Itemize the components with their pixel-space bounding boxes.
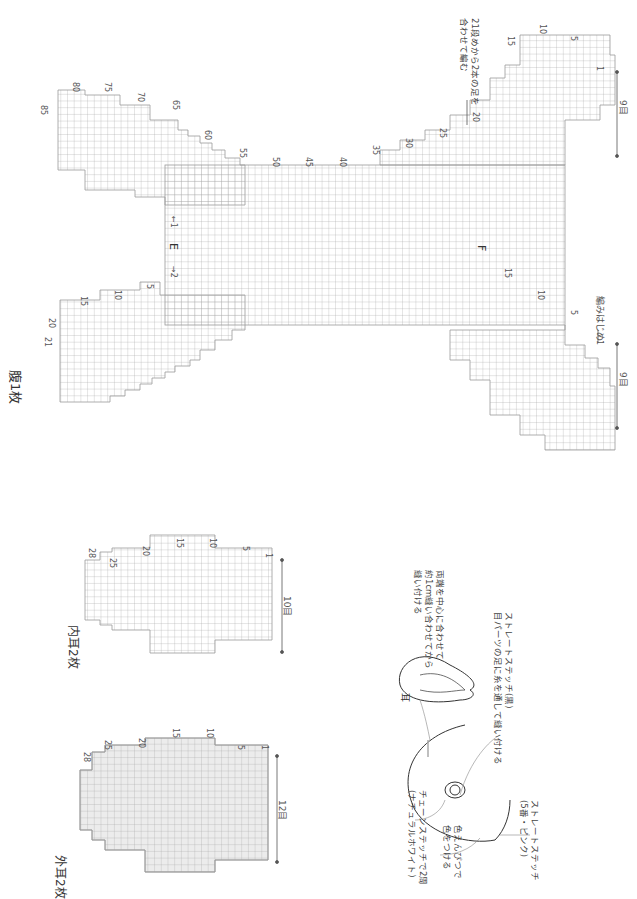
inner-ear-width: 10目 <box>281 596 294 616</box>
chain-stitch-note: チェーンステッチで2周 (ナチュラルホワイト) <box>406 790 428 885</box>
belly-right-row-15: 15 <box>506 36 515 46</box>
belly-row-75: 75 <box>103 82 112 92</box>
belly-row-20: 20 <box>471 112 480 122</box>
belly-width-right: 9目 <box>617 100 630 115</box>
belly-row-50: 50 <box>271 157 280 167</box>
outer-ear-title: 外耳2枚 <box>53 855 70 899</box>
marker-arrow-2: →2 <box>169 266 178 278</box>
inner-ear-row-1: 1 <box>264 553 273 558</box>
inner-ear-chart-grid <box>85 535 272 653</box>
outer-ear-chart-grid <box>80 738 268 872</box>
belly-left-row-10: 10 <box>536 290 545 300</box>
eye-icon <box>445 782 465 798</box>
marker-f: F <box>475 245 488 251</box>
belly-chart-title: 腹1枚 <box>7 370 26 404</box>
belly-width-left: 9目 <box>617 372 630 387</box>
outer-ear-row-5: 5 <box>236 745 245 750</box>
ear-note: 両端を中心に合わせて 約1cm縫い合わせてから 縫い付ける <box>412 570 445 669</box>
belly-row-15: 15 <box>79 296 88 306</box>
belly-left-row-15: 15 <box>503 268 512 278</box>
inner-ear-row-25: 25 <box>108 558 117 568</box>
outer-ear-row-25: 25 <box>103 740 112 750</box>
outer-ear-row-1: 1 <box>260 745 269 750</box>
inner-ear-row-10: 10 <box>208 538 217 548</box>
belly-note: 21段めから2本の足を 合わせて編む <box>458 18 480 106</box>
belly-left-row-5: 5 <box>569 310 578 315</box>
belly-row-30: 30 <box>404 138 413 148</box>
marker-arrow-1: ←1 <box>169 216 178 228</box>
ear-label: 耳 <box>399 693 412 702</box>
eye-note: ストレートステッチ(黒) 目パーツの足に糸を通して縫い付ける <box>492 612 514 765</box>
nose-note: ストレートステッチ (5番・ピンク) <box>518 800 540 881</box>
belly-row-55: 55 <box>238 148 247 158</box>
belly-right-row-10: 10 <box>538 24 547 34</box>
inner-ear-row-15: 15 <box>175 538 184 548</box>
belly-row-70: 70 <box>136 92 145 102</box>
outer-ear-row-15: 15 <box>171 728 180 738</box>
marker-e: E <box>167 243 180 250</box>
inner-ear-row-28: 28 <box>87 548 96 558</box>
belly-row-35: 35 <box>371 145 380 155</box>
belly-row-80: 80 <box>71 82 80 92</box>
belly-right-row-5: 5 <box>569 36 578 41</box>
belly-row-21: 21 <box>43 337 52 347</box>
outer-ear-row-20: 20 <box>137 738 146 748</box>
belly-row-25: 25 <box>438 128 447 138</box>
cheek-note: 色えんぴつで 色をつける <box>441 825 463 879</box>
inner-ear-row-5: 5 <box>241 546 250 551</box>
outer-ear-width: 12目 <box>276 800 289 820</box>
inner-ear-title: 内耳2枚 <box>66 625 83 669</box>
belly-row-40: 40 <box>338 157 347 167</box>
outer-ear-row-28: 28 <box>82 752 91 762</box>
belly-row-60: 60 <box>203 130 212 140</box>
belly-row-45: 45 <box>304 157 313 167</box>
belly-row-65: 65 <box>171 100 180 110</box>
belly-right-row-1: 1 <box>595 66 604 71</box>
belly-row-20: 20 <box>47 318 56 328</box>
outer-ear-row-10: 10 <box>205 728 214 738</box>
inner-ear-row-20: 20 <box>141 546 150 556</box>
start-label: 編みはじめ <box>594 296 607 341</box>
belly-row-85: 85 <box>39 105 48 115</box>
belly-row-5: 5 <box>145 284 154 289</box>
belly-row-10: 10 <box>113 290 122 300</box>
